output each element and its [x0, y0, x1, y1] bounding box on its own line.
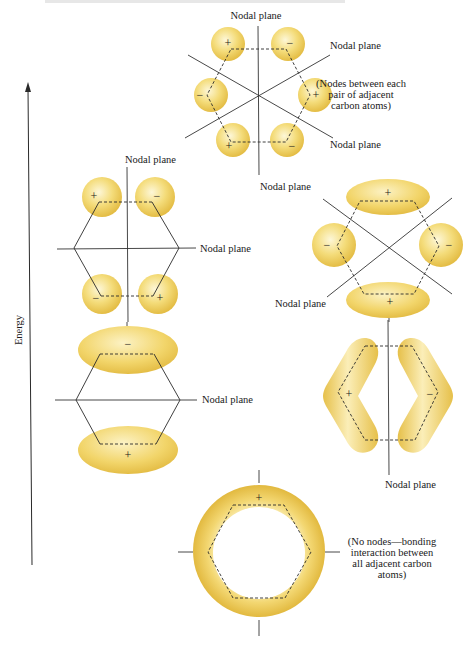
- orbital-psi5: Nodal plane + − − + Nodal plane: [260, 179, 463, 322]
- svg-text:−: −: [197, 88, 204, 102]
- svg-text:+: +: [385, 186, 392, 200]
- nodal-plane-label: Nodal plane: [385, 479, 436, 490]
- orbital-psi2: − + Nodal plane: [55, 322, 253, 474]
- arrow-up-icon: [25, 82, 31, 92]
- benzene-mo-diagram: Energy Nodal plane + − − + + − Nodal pla…: [0, 0, 476, 651]
- svg-text:all adjacent carbon: all adjacent carbon: [352, 558, 432, 569]
- nodal-plane-label: Nodal plane: [202, 394, 253, 405]
- energy-axis: Energy: [13, 82, 32, 565]
- svg-text:+: +: [125, 448, 132, 462]
- orbital-psi6: Nodal plane + − − + + − Nodal plane Noda…: [185, 10, 407, 175]
- svg-text:−: −: [427, 387, 434, 401]
- svg-text:−: −: [125, 337, 132, 351]
- nodal-plane-label: Nodal plane: [125, 154, 176, 165]
- nodal-plane-label: Nodal plane: [230, 10, 281, 21]
- svg-text:−: −: [446, 238, 453, 252]
- svg-text:−: −: [154, 189, 161, 203]
- svg-text:carbon atoms): carbon atoms): [331, 100, 391, 112]
- svg-text:+: +: [225, 36, 232, 50]
- svg-text:+: +: [256, 491, 263, 505]
- nodal-plane-label: Nodal plane: [330, 40, 381, 51]
- nodal-plane-label: Nodal plane: [260, 181, 311, 192]
- lobe: [216, 123, 250, 157]
- lobe: [398, 338, 453, 453]
- svg-text:−: −: [287, 36, 294, 50]
- svg-text:−: −: [93, 291, 100, 305]
- lobe: [82, 274, 122, 314]
- svg-text:+: +: [226, 139, 233, 153]
- nodal-plane-label: Nodal plane: [275, 298, 326, 309]
- svg-text:pair of adjacent: pair of adjacent: [328, 89, 393, 100]
- svg-text:+: +: [313, 88, 320, 102]
- svg-text:atoms): atoms): [378, 569, 407, 581]
- cropped-caption-fragment: [45, 0, 345, 3]
- orbital-psi4: Nodal plane + − − + Nodal plane: [57, 154, 251, 322]
- svg-text:+: +: [387, 295, 394, 309]
- orbital-psi3: + − Nodal plane: [323, 320, 453, 490]
- energy-axis-label: Energy: [13, 314, 24, 345]
- svg-text:+: +: [91, 189, 98, 203]
- svg-text:+: +: [157, 291, 164, 305]
- svg-text:−: −: [289, 139, 296, 153]
- lobe: [312, 223, 356, 267]
- svg-text:−: −: [324, 238, 331, 252]
- nodal-plane-label: Nodal plane: [200, 243, 251, 254]
- svg-text:+: +: [346, 387, 353, 401]
- nodal-plane-label: Nodal plane: [330, 139, 381, 150]
- svg-text:interaction between: interaction between: [351, 547, 434, 558]
- orbital-psi1: + (No nodes—bonding interaction between …: [178, 470, 437, 636]
- lobe: [82, 177, 122, 217]
- ring-hole: [213, 507, 305, 599]
- lobe: [419, 223, 463, 267]
